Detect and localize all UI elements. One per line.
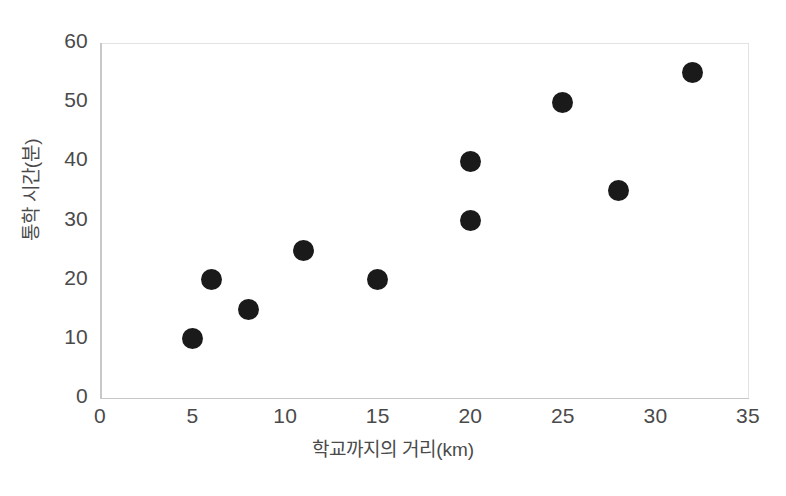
data-point — [293, 240, 314, 261]
y-axis-title-wrap: 통학 시간(분) — [14, 50, 44, 330]
x-tick-label: 35 — [718, 404, 778, 428]
data-point — [682, 62, 703, 83]
plot-frame-top — [100, 43, 749, 44]
scatter-chart-figure: 0102030405060 05101520253035 통학 시간(분) 학교… — [0, 0, 786, 496]
data-point — [552, 92, 573, 113]
y-axis-line — [100, 43, 102, 399]
data-point — [238, 299, 259, 320]
x-axis-title: 학교까지의 거리(km) — [0, 434, 786, 461]
data-point — [201, 269, 222, 290]
x-tick-label: 20 — [440, 404, 500, 428]
x-axis-line — [100, 398, 749, 400]
x-tick-label: 5 — [163, 404, 223, 428]
data-point — [460, 210, 481, 231]
x-tick-label: 0 — [70, 404, 130, 428]
data-point — [460, 151, 481, 172]
x-tick-label: 25 — [533, 404, 593, 428]
y-axis-title: 통학 시간(분) — [16, 139, 43, 242]
x-tick-label: 15 — [348, 404, 408, 428]
x-tick-label: 30 — [625, 404, 685, 428]
x-tick-label: 10 — [255, 404, 315, 428]
plot-frame-right — [748, 43, 749, 399]
